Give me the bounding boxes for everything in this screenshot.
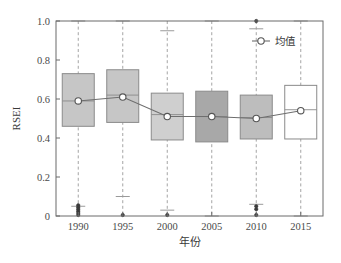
chart-root: 00.20.40.60.81.0199019952000200520102015… bbox=[0, 0, 341, 263]
xtick-label-1990: 1990 bbox=[68, 221, 89, 232]
mean-marker-1995 bbox=[120, 94, 126, 100]
box-plot-figure: 00.20.40.60.81.0199019952000200520102015… bbox=[0, 0, 341, 263]
xtick-label-2000: 2000 bbox=[157, 221, 178, 232]
mean-marker-2000 bbox=[164, 113, 170, 119]
ytick-label-0.4: 0.4 bbox=[37, 133, 51, 144]
ytick-label-0: 0 bbox=[45, 211, 50, 222]
xtick-label-2005: 2005 bbox=[201, 221, 222, 232]
legend-label-mean: 均值 bbox=[275, 35, 296, 47]
xtick-label-2015: 2015 bbox=[290, 221, 311, 232]
y-axis-title: RSEI bbox=[10, 106, 22, 130]
mean-marker-2015 bbox=[298, 108, 304, 114]
mean-marker-2010 bbox=[253, 115, 259, 121]
mean-marker-2005 bbox=[209, 113, 215, 119]
axis-frame bbox=[56, 21, 323, 216]
legend-mean-marker bbox=[258, 38, 264, 44]
outlier-2010-2 bbox=[255, 207, 258, 210]
xtick-label-2010: 2010 bbox=[246, 221, 267, 232]
x-axis-title: 年份 bbox=[179, 235, 201, 248]
xtick-label-1995: 1995 bbox=[112, 221, 133, 232]
ytick-label-1.0: 1.0 bbox=[37, 16, 50, 27]
ytick-label-0.2: 0.2 bbox=[37, 172, 50, 183]
mean-marker-1990 bbox=[75, 98, 81, 104]
ytick-label-0.6: 0.6 bbox=[37, 94, 50, 105]
ytick-label-0.8: 0.8 bbox=[37, 55, 50, 66]
